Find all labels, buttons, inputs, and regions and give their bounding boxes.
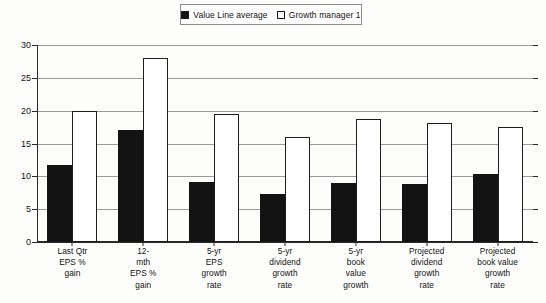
- x-axis-category-label: 5-yrbookvaluegrowth: [320, 246, 391, 303]
- x-axis-category-label: 5-yrEPSgrowthrate: [179, 246, 250, 303]
- legend-label: Growth manager 1: [289, 10, 361, 20]
- y-axis-tick-mark-right: [533, 78, 538, 79]
- filled-square-icon: [181, 11, 189, 19]
- y-axis-tick-mark: [32, 176, 37, 177]
- y-axis-tick-mark-right: [533, 209, 538, 210]
- y-axis-tick-label: 5: [5, 204, 31, 214]
- y-axis-tick-mark: [32, 45, 37, 46]
- x-axis-category-label: 12-mthEPS %gain: [108, 246, 179, 303]
- right-axis-ticks: [37, 45, 533, 242]
- x-axis-labels: Last QtrEPS %gain12-mthEPS %gain5-yrEPSg…: [37, 246, 533, 303]
- y-axis-tick-label: 15: [5, 139, 31, 149]
- y-axis-tick-label: 30: [5, 40, 31, 50]
- y-axis-tick-mark: [32, 78, 37, 79]
- y-axis-tick-mark: [32, 111, 37, 112]
- y-axis-tick-mark: [32, 209, 37, 210]
- y-axis-tick-mark: [32, 144, 37, 145]
- x-axis-category-label: Last QtrEPS %gain: [37, 246, 108, 303]
- x-axis-category-label: Projectedbook valuegrowthrate: [462, 246, 533, 303]
- y-axis-tick-mark-right: [533, 176, 538, 177]
- chart-legend: Value Line averageGrowth manager 1: [180, 4, 362, 25]
- y-axis-labels: 051015202530: [0, 45, 31, 242]
- y-axis-tick-label: 20: [5, 106, 31, 116]
- y-axis-tick-mark-right: [533, 111, 538, 112]
- legend-entry: Value Line average: [181, 10, 267, 20]
- y-axis-tick-label: 25: [5, 73, 31, 83]
- y-axis-tick-mark-right: [533, 45, 538, 46]
- x-axis-category-label: 5-yrdividendgrowthrate: [250, 246, 321, 303]
- bar-chart: Value Line averageGrowth manager 1 05101…: [0, 0, 546, 303]
- y-axis-tick-mark-right: [533, 242, 538, 243]
- y-axis-tick-label: 10: [5, 171, 31, 181]
- y-axis-tick-mark-right: [533, 144, 538, 145]
- y-axis-tick-mark: [32, 242, 37, 243]
- hollow-square-icon: [277, 11, 285, 19]
- legend-label: Value Line average: [193, 10, 267, 20]
- legend-entry: Growth manager 1: [277, 10, 361, 20]
- x-axis-category-label: Projecteddividendgrowthrate: [391, 246, 462, 303]
- y-axis-tick-label: 0: [5, 237, 31, 247]
